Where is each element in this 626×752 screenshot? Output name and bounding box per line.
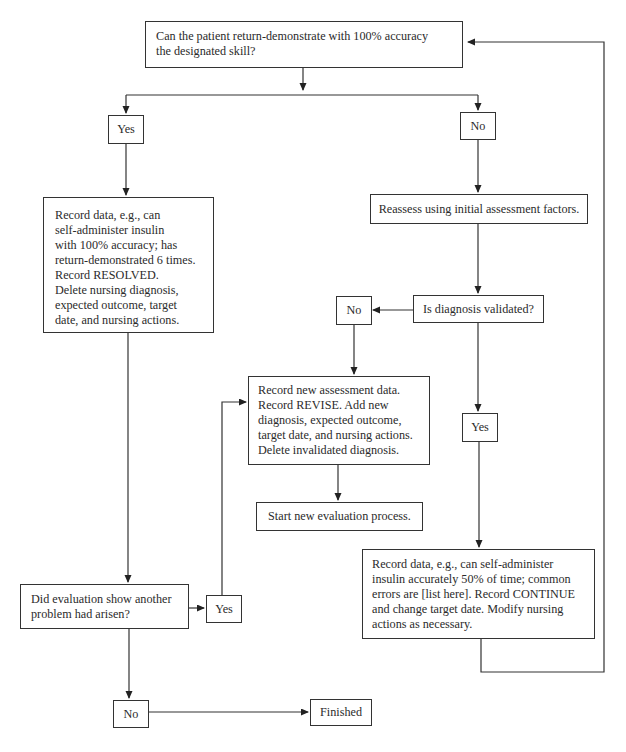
- no-box-1: No: [460, 112, 496, 140]
- diagnosis-validated-label: Is diagnosis validated?: [423, 302, 534, 317]
- yes-label-1: Yes: [117, 122, 135, 137]
- another-problem-line-2: problem had arisen?: [31, 607, 188, 622]
- yes-label-2: Yes: [471, 420, 489, 435]
- revise-line-4: target date, and nursing actions.: [258, 428, 429, 443]
- revise-line-5: Delete invalidated diagnosis.: [258, 443, 429, 458]
- reassess-label: Reassess using initial assessment factor…: [379, 202, 580, 217]
- continue-line-1: Record data, e.g., can self-administer: [372, 557, 594, 572]
- yes-label-3: Yes: [215, 602, 233, 617]
- revise-box: Record new assessment data. Record REVIS…: [248, 376, 430, 465]
- no-label-2: No: [347, 303, 362, 318]
- start-question-line-1: Can the patient return-demonstrate with …: [156, 29, 452, 44]
- resolved-line-5: Record RESOLVED.: [55, 268, 213, 283]
- revise-line-2: Record REVISE. Add new: [258, 398, 429, 413]
- continue-box: Record data, e.g., can self-administer i…: [362, 549, 595, 639]
- revise-line-3: diagnosis, expected outcome,: [258, 413, 429, 428]
- yes-box-2: Yes: [462, 413, 498, 442]
- yes-box-3: Yes: [206, 595, 242, 623]
- start-new-evaluation-label: Start new evaluation process.: [268, 509, 411, 524]
- yes-box-1: Yes: [108, 115, 144, 144]
- reassess-box: Reassess using initial assessment factor…: [370, 194, 588, 224]
- continue-line-4: and change target date. Modify nursing: [372, 602, 594, 617]
- another-problem-line-1: Did evaluation show another: [31, 592, 188, 607]
- no-label-3: No: [124, 707, 139, 722]
- no-box-3: No: [113, 700, 149, 728]
- resolved-line-6: Delete nursing diagnosis,: [55, 283, 213, 298]
- continue-line-5: actions as necessary.: [372, 617, 594, 632]
- no-label-1: No: [471, 119, 486, 134]
- resolved-box: Record data, e.g., can self-administer i…: [43, 197, 214, 333]
- revise-line-1: Record new assessment data.: [258, 383, 429, 398]
- arrow-yes-to-revise: [222, 402, 246, 595]
- continue-line-3: errors are [list here]. Record CONTINUE: [372, 587, 594, 602]
- another-problem-box: Did evaluation show another problem had …: [20, 584, 189, 629]
- continue-line-2: insulin accurately 50% of time; common: [372, 572, 594, 587]
- resolved-line-7: expected outcome, target: [55, 298, 213, 313]
- resolved-line-3: with 100% accuracy; has: [55, 238, 213, 253]
- start-question-box: Can the patient return-demonstrate with …: [145, 21, 463, 68]
- finished-label: Finished: [320, 705, 362, 720]
- resolved-line-8: date, and nursing actions.: [55, 313, 213, 328]
- finished-box: Finished: [310, 699, 372, 726]
- diagnosis-validated-box: Is diagnosis validated?: [413, 295, 544, 323]
- no-box-2: No: [336, 296, 372, 325]
- start-question-line-2: the designated skill?: [156, 44, 452, 59]
- resolved-line-2: self-administer insulin: [55, 223, 213, 238]
- start-new-evaluation-box: Start new evaluation process.: [256, 502, 423, 531]
- resolved-line-1: Record data, e.g., can: [55, 208, 213, 223]
- resolved-line-4: return-demonstrated 6 times.: [55, 253, 213, 268]
